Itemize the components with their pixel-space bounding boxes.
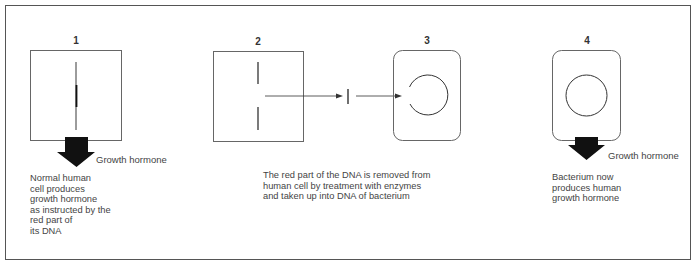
step-4-description: Bacterium now produces human growth horm…	[552, 172, 621, 204]
step-number-1: 1	[73, 35, 79, 46]
arrowhead-icon	[336, 94, 343, 99]
human-cell-panel-2	[214, 52, 403, 142]
growth-hormone-arrow-icon	[57, 137, 95, 167]
human-cell-panel-1	[31, 51, 122, 168]
bacterium-outline	[553, 51, 621, 141]
open-plasmid-ring	[410, 75, 448, 115]
bacterium-outline	[394, 51, 461, 141]
arrowhead-icon	[395, 94, 402, 99]
step-1-description: Normal human cell produces growth hormon…	[30, 173, 111, 237]
step-number-4: 4	[584, 35, 590, 46]
step-2-3-description: The red part of the DNA is removed from …	[263, 170, 430, 202]
step-number-2: 2	[255, 36, 261, 47]
step-number-3: 3	[424, 35, 430, 46]
bacterium-panel-4	[553, 51, 621, 161]
bacterium-panel-3	[394, 51, 461, 141]
growth-hormone-label-1: Growth hormone	[96, 154, 167, 165]
growth-hormone-label-4: Growth hormone	[608, 150, 679, 161]
closed-plasmid-ring	[566, 75, 607, 116]
